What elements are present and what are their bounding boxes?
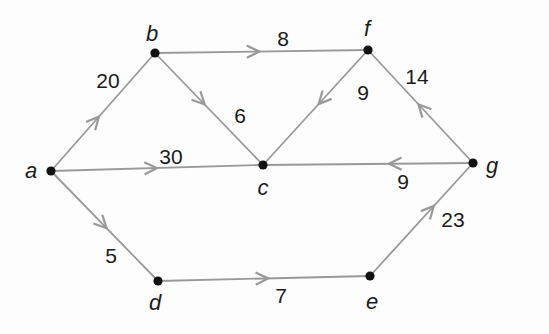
edge-g-c [263, 163, 473, 165]
node-a [46, 166, 55, 175]
edge-f-c [263, 50, 368, 165]
edge-weight-b-f: 8 [277, 27, 289, 50]
node-g [468, 158, 477, 167]
node-label-f: f [364, 16, 373, 41]
node-c [258, 160, 267, 169]
node-d [153, 276, 162, 285]
node-label-a: a [25, 158, 37, 183]
edge-weight-b-c: 6 [234, 104, 246, 127]
node-label-b: b [146, 21, 158, 46]
edge-weight-e-g: 23 [441, 208, 464, 231]
graph-canvas: 20869143095723abcdefg [0, 0, 549, 334]
edge-weight-f-c: 9 [357, 81, 369, 104]
node-label-d: d [149, 290, 162, 315]
edge-weight-g-c: 9 [397, 170, 409, 193]
node-e [365, 271, 374, 280]
node-label-e: e [366, 289, 378, 314]
edge-weight-a-d: 5 [105, 244, 117, 267]
node-f [363, 45, 372, 54]
graph-figure: 20869143095723abcdefg [0, 0, 549, 334]
edge-weight-d-e: 7 [275, 284, 287, 307]
edge-weight-a-b: 20 [96, 69, 119, 92]
edge-weight-a-c: 30 [159, 145, 182, 168]
edge-weight-g-f: 14 [405, 65, 429, 88]
node-label-g: g [486, 153, 499, 178]
node-label-c: c [258, 175, 269, 200]
node-b [150, 48, 159, 57]
